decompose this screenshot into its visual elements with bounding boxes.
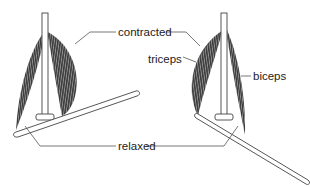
- left-biceps-muscle: [48, 32, 77, 116]
- right-forearm-bone: [195, 113, 310, 184]
- relaxed-label: relaxed: [118, 140, 156, 152]
- biceps-label: biceps: [253, 70, 286, 82]
- muscle-diagram: contracted relaxed triceps biceps: [0, 0, 310, 187]
- contracted-label: contracted: [118, 26, 172, 38]
- right-humerus-bone: [215, 13, 233, 120]
- triceps-leader-line: [183, 57, 196, 62]
- right-arm-panel: [192, 13, 310, 185]
- left-humerus-bone: [36, 13, 54, 120]
- left-forearm-bone: [14, 91, 140, 137]
- triceps-label: triceps: [148, 53, 182, 65]
